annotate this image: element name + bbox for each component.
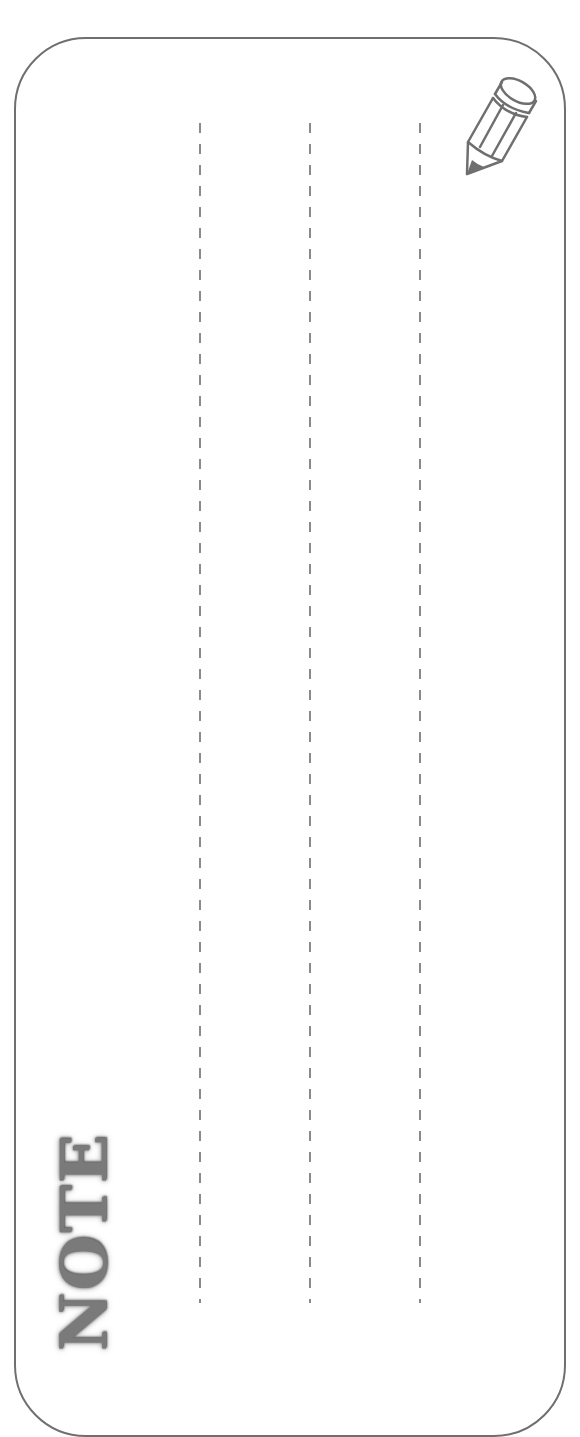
note-title: NOTE (46, 1133, 121, 1352)
dashed-writing-line-1 (199, 123, 201, 1303)
pencil-icon (456, 64, 546, 176)
dashed-writing-line-2 (309, 123, 311, 1303)
dashed-writing-line-3 (419, 123, 421, 1303)
